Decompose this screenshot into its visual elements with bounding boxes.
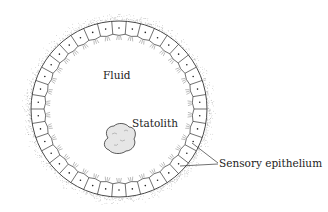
statolith xyxy=(104,123,135,153)
statocyst-diagram xyxy=(0,0,328,212)
epithelium-cells xyxy=(31,21,207,196)
label-sensory-epithelium: Sensory epithelium xyxy=(219,157,322,169)
label-statolith: Statolith xyxy=(132,117,178,129)
outer-membrane xyxy=(31,21,207,197)
label-fluid: Fluid xyxy=(103,69,131,81)
outer-stipple xyxy=(22,14,215,205)
